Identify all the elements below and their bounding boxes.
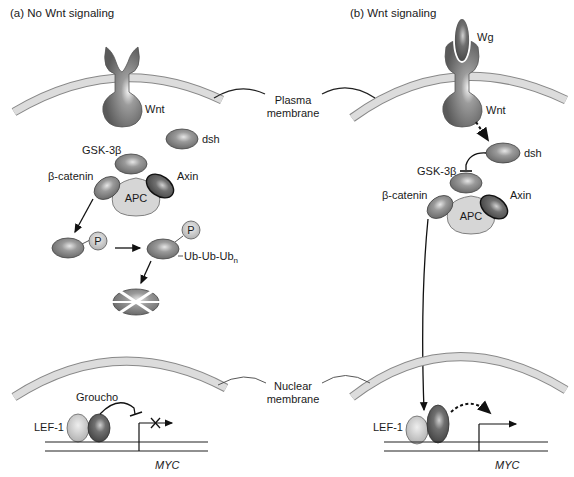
dsh-label-a: dsh [202,133,220,145]
myc-gene-label-a: MYC [155,459,180,471]
bcatenin-nuclear [427,405,449,443]
nuclear-membrane-b [352,357,566,397]
lef1-label-a: LEF-1 [34,421,64,433]
repression-bar [130,412,142,416]
phospho-label-1: P [94,235,101,247]
dsh-label-b: dsh [524,147,542,159]
groucho-label: Groucho [76,391,118,403]
phospho-link-2 [175,236,183,242]
lef1-protein-b [406,416,428,444]
apc-label-b: APC [460,210,483,222]
groucho-protein [88,414,110,442]
axin-label-a: Axin [177,170,198,182]
plasma-leader-right [322,88,375,98]
arrow-degradation [141,261,151,283]
apc-label-a: APC [125,192,148,204]
dsh-protein-a [166,129,198,149]
lef1-label-b: LEF-1 [373,421,403,433]
panel-a-title: (a) No Wnt signaling [10,7,114,19]
gsk3b-protein-a [115,154,147,174]
arrow-activation-dsh [476,122,488,140]
bcatenin-label-b: β-catenin [382,189,427,201]
lef1-protein-a [67,414,89,442]
phospho-label-2: P [187,224,194,236]
wg-label: Wg [477,31,494,43]
wnt-label-a: Wnt [145,103,165,115]
axin-label-b: Axin [510,189,531,201]
plasma-label-2: membrane [267,107,320,119]
wnt-receptor-a [103,47,142,127]
ubiquitin-label: Ub-Ub-Ubn [184,250,238,265]
nuclear-label-2: membrane [267,393,320,405]
gsk-label-b: GSK-3β [417,165,456,177]
gsk-label-a: GSK-3β [82,144,121,156]
nuclear-leader-right [322,376,370,384]
degraded-protein-fragments [112,289,160,315]
myc-gene-label-b: MYC [495,459,520,471]
arrow-phosphorylation [75,199,93,232]
bcatenin-phospho [52,238,84,258]
plasma-label-1: Plasma [275,94,313,106]
groucho-repression-line [100,403,135,414]
wnt-pathway-diagram: (a) No Wnt signaling (b) Wnt signaling P… [0,0,574,477]
nuclear-label-1: Nuclear [274,380,312,392]
destruction-complex-a [90,154,178,216]
inhibition-line [466,153,486,170]
panel-b-title: (b) Wnt signaling [350,7,436,19]
wnt-label-b: Wnt [486,104,506,116]
dsh-protein-b [486,143,520,163]
nuclear-membrane-a [14,361,226,397]
wg-ligand [454,18,470,62]
arrow-nuclear-translocation [423,219,428,410]
bcatenin-ubiquitinated [147,239,179,259]
bcatenin-label-a: β-catenin [48,170,93,182]
destruction-complex-b [423,173,512,234]
activation-arrow-dashed [451,404,490,413]
